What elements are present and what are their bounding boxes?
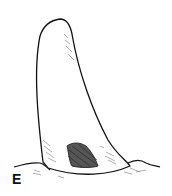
panel-label: E (12, 172, 21, 186)
tubercle-drawing (0, 0, 172, 196)
